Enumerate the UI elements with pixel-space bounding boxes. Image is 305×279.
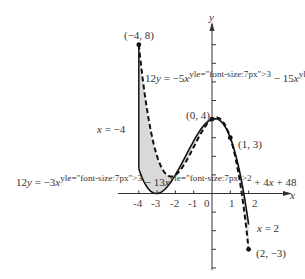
figure: y x -4 -3 -2 -1 0 1 2 12y = −5xyle="font… [0,0,305,279]
x-tick-label: -3 [151,198,160,209]
x-tick-label: -1 [188,198,197,209]
lower-curve-equation: 12y = −3xyle="font-size:7px">3 − 13xyle=… [16,174,296,188]
upper-curve-equation: 12y = −5xyle="font-size:7px">3 − 15xyle=… [145,70,305,84]
point-label: (1, 3) [238,139,262,150]
y-axis-label: y [209,12,214,23]
point-label: (2, −3) [256,248,286,259]
x-tick-label: -2 [170,198,179,209]
x-tick-label: 0 [204,198,210,209]
x-axis-label: x [290,190,295,201]
point-label: (−4, 8) [124,30,154,41]
line-label-x-2: x = 2 [257,223,279,234]
line-label-x-neg4: x = −4 [97,124,125,135]
x-tick-label: 2 [252,198,258,209]
point-label: (0, 4) [186,110,210,121]
x-tick-label: -4 [133,198,142,209]
x-tick-label: 1 [229,198,235,209]
